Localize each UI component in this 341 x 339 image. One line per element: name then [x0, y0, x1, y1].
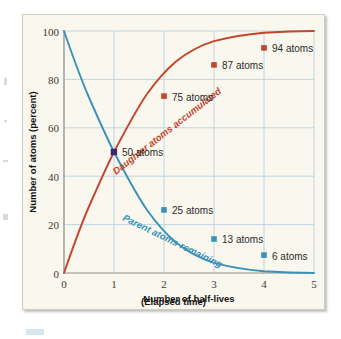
y-tick-labels: 100 80 60 40 20 0 [43, 26, 60, 280]
x-axis-subtitle-text: (Elapsed time) [141, 296, 206, 307]
figure-root: 100 80 60 40 20 0 0 1 2 3 4 5 Number of … [0, 0, 341, 339]
x-axis-subtitle: (Elapsed time) [23, 296, 324, 307]
y-tick-20: 20 [48, 219, 60, 231]
parent-marker-3 [211, 236, 217, 242]
y-tick-0: 0 [54, 268, 60, 280]
edge-fragment [3, 160, 8, 162]
y-tick-80: 80 [48, 74, 60, 86]
crossover-marker-group: 50 atoms [111, 147, 163, 158]
y-tick-100: 100 [43, 26, 60, 38]
page-bottom-swatch [26, 329, 44, 335]
y-axis-title: Number of atoms (percent) [27, 91, 38, 212]
daughter-label-75: 75 atoms [172, 92, 213, 103]
parent-curve-label: Parent atoms remaining [121, 212, 224, 270]
edge-fragment [4, 120, 7, 122]
x-tick-4: 4 [261, 278, 267, 290]
x-tick-1: 1 [111, 278, 117, 290]
radioactive-decay-chart: 100 80 60 40 20 0 0 1 2 3 4 5 Number of … [23, 15, 324, 309]
x-tick-5: 5 [311, 278, 317, 290]
x-tick-2: 2 [161, 278, 167, 290]
y-axis-title-text: Number of atoms (percent) [27, 91, 38, 212]
daughter-marker-group: 75 atoms 87 atoms 94 atoms [161, 43, 313, 102]
page-edge-text-fragments [0, 0, 14, 339]
daughter-atoms-curve [64, 31, 314, 273]
x-tick-labels: 0 1 2 3 4 5 [61, 278, 317, 290]
x-tick-0: 0 [61, 278, 67, 290]
parent-marker-2 [161, 207, 167, 213]
daughter-label-94: 94 atoms [272, 43, 313, 54]
grid-lines [64, 31, 314, 273]
parent-label-6: 6 atoms [272, 251, 308, 262]
x-tick-3: 3 [211, 278, 217, 290]
daughter-marker-4 [261, 45, 267, 51]
parent-label-13: 13 atoms [222, 234, 263, 245]
parent-marker-4 [261, 252, 267, 258]
crossover-label-50: 50 atoms [122, 147, 163, 158]
daughter-label-87: 87 atoms [222, 60, 263, 71]
daughter-marker-2 [161, 93, 167, 99]
y-tick-40: 40 [48, 171, 60, 183]
parent-marker-group: 25 atoms 13 atoms 6 atoms [161, 205, 307, 261]
edge-fragment [3, 214, 8, 220]
chart-frame: 100 80 60 40 20 0 0 1 2 3 4 5 Number of … [22, 14, 325, 310]
y-tick-60: 60 [48, 122, 60, 134]
parent-atoms-curve [64, 31, 314, 273]
daughter-marker-3 [211, 62, 217, 68]
edge-fragment [4, 78, 7, 85]
crossover-marker [111, 149, 117, 155]
parent-label-25: 25 atoms [172, 205, 213, 216]
axis-lines [64, 31, 314, 273]
